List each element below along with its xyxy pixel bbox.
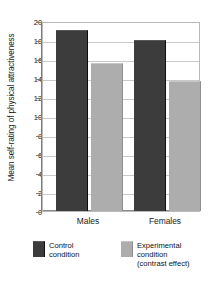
legend-swatch-experimental-icon (121, 241, 133, 257)
legend-label-experimental-line3: (contrast effect) (137, 259, 190, 268)
bar-experimental-males[interactable] (91, 63, 123, 211)
legend-label-experimental-line2: condition (137, 250, 190, 259)
bar-experimental-females[interactable] (169, 81, 201, 211)
bar-chart-figure: Mean self-rating of physical attractiven… (0, 0, 219, 290)
chart-legend: Control condition Experimental condition… (0, 239, 219, 290)
plot-area (42, 22, 200, 212)
x-axis-label-males: Males (77, 216, 99, 226)
legend-label-control: Control condition (49, 241, 79, 259)
legend-label-experimental: Experimental condition (contrast effect) (137, 241, 190, 269)
bar-control-females[interactable] (134, 40, 166, 211)
legend-label-experimental-line1: Experimental (137, 241, 190, 250)
legend-label-control-line2: condition (49, 250, 79, 259)
x-axis-label-females: Females (149, 216, 181, 226)
legend-swatch-control-icon (33, 241, 45, 257)
legend-entry-experimental[interactable]: Experimental condition (contrast effect) (121, 241, 190, 269)
legend-label-control-line1: Control (49, 241, 79, 250)
legend-entry-control[interactable]: Control condition (33, 241, 79, 259)
bar-control-males[interactable] (56, 30, 88, 212)
y-axis-ticks: 20 18 16 14 12 10 8 6 4 2 0 (0, 0, 42, 215)
